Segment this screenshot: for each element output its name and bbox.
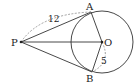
point-o xyxy=(101,41,104,44)
segment-oa xyxy=(91,12,102,42)
label-5: 5 xyxy=(101,56,107,66)
segment-pb xyxy=(21,42,92,72)
label-b: B xyxy=(86,73,93,83)
label-o: O xyxy=(104,37,112,48)
label-p: P xyxy=(11,37,18,48)
geometry-diagram: P A B O 12 5 xyxy=(0,0,138,83)
label-12: 12 xyxy=(48,14,59,24)
label-a: A xyxy=(85,1,94,12)
point-p xyxy=(20,41,23,44)
